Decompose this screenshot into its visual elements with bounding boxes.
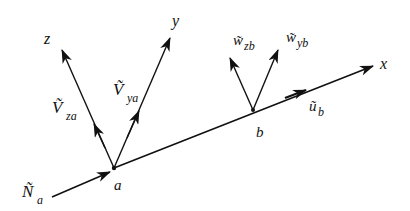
x-axis-label: x bbox=[379, 55, 387, 72]
point-b-label: b bbox=[256, 124, 264, 140]
svg-text:ya: ya bbox=[126, 91, 138, 105]
point-a-label: a bbox=[114, 177, 122, 193]
svg-text:zb: zb bbox=[243, 39, 255, 53]
svg-text:Ṽ: Ṽ bbox=[113, 80, 126, 99]
x-axis bbox=[114, 66, 373, 168]
v-ya-arrow bbox=[127, 111, 139, 138]
svg-text:w̃: w̃ bbox=[286, 29, 296, 45]
n-a-arrow bbox=[52, 172, 110, 197]
svg-text:za: za bbox=[65, 109, 77, 123]
point-b-dot bbox=[251, 108, 255, 112]
svg-text:w̃: w̃ bbox=[233, 32, 243, 48]
svg-text:a: a bbox=[37, 193, 43, 207]
free-body-diagram: z y x a b Ṽ za Ṽ ya Ñ a w̃ zb w̃ yb ũ b bbox=[0, 0, 410, 211]
u-b-label: ũ b bbox=[309, 98, 324, 119]
svg-text:b: b bbox=[318, 105, 324, 119]
w-yb-arrow bbox=[253, 50, 278, 110]
w-zb-arrow bbox=[230, 58, 253, 110]
y-axis-label: y bbox=[170, 12, 180, 30]
v-za-label: Ṽ za bbox=[52, 98, 77, 123]
svg-text:yb: yb bbox=[296, 36, 308, 50]
diagram-svg: z y x a b Ṽ za Ṽ ya Ñ a w̃ zb w̃ yb ũ b bbox=[0, 0, 410, 211]
w-zb-label: w̃ zb bbox=[233, 32, 255, 53]
v-za-arrow bbox=[94, 124, 105, 148]
n-a-label: Ñ a bbox=[21, 182, 43, 207]
point-a-dot bbox=[112, 166, 116, 170]
z-axis-label: z bbox=[43, 30, 51, 47]
svg-text:ũ: ũ bbox=[309, 98, 317, 114]
svg-text:Ñ: Ñ bbox=[21, 182, 35, 201]
v-ya-label: Ṽ ya bbox=[113, 80, 138, 105]
svg-text:Ṽ: Ṽ bbox=[52, 98, 65, 117]
w-yb-label: w̃ yb bbox=[286, 29, 308, 50]
